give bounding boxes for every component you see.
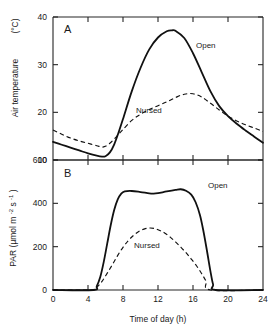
panel-b-ylabel-unit: (µmol m xyxy=(8,217,18,248)
panel-b-ytick-group xyxy=(53,160,263,290)
panel-a-open-label: Open xyxy=(196,41,216,50)
figure-svg: 10203040 A Air temperature (°C) Open Nur… xyxy=(0,0,280,334)
xtick-label-0: 0 xyxy=(51,294,56,304)
ytick-label-0: 0 xyxy=(42,285,47,295)
panel-b-ylabel-mid: s xyxy=(8,202,18,206)
x-axis-title: Time of day (h) xyxy=(130,314,187,324)
panel-a-ylabel-unit: (°C) xyxy=(10,18,20,33)
panel-b-open-curve xyxy=(53,189,263,290)
panel-b-ylabel-close: ) xyxy=(8,189,18,192)
panel-b-xtick-labels: 04812162024 xyxy=(51,294,268,304)
panel-b-ytick-labels: 0200400600 xyxy=(33,155,47,295)
figure-container: 10203040 A Air temperature (°C) Open Nur… xyxy=(0,0,280,334)
panel-b-open-label: Open xyxy=(208,181,228,190)
panel-a-ytick-labels: 10203040 xyxy=(38,12,48,165)
ytick-label-20: 20 xyxy=(38,107,48,117)
panel-a-letter: A xyxy=(64,23,72,35)
panel-a: 10203040 A Air temperature (°C) Open Nur… xyxy=(10,12,263,165)
panel-b-letter: B xyxy=(64,167,71,179)
panel-b-ylabel-main: PAR xyxy=(8,250,18,267)
xtick-label-12: 12 xyxy=(153,294,163,304)
panel-a-ylabel-text: Air temperature xyxy=(10,58,20,117)
ytick-label-400: 400 xyxy=(33,198,47,208)
panel-a-ylabel-main: Air temperature xyxy=(10,58,20,117)
panel-b: 0200400600 04812162024 B PAR (µmol m -2 … xyxy=(5,155,268,324)
panel-b-nursed-label: Nursed xyxy=(134,241,160,250)
ytick-label-40: 40 xyxy=(38,12,48,22)
panel-b-ylabel-text: PAR (µmol m -2 s -1 ) xyxy=(5,189,18,267)
xtick-label-4: 4 xyxy=(86,294,91,304)
panel-b-ylabel-exp1: -2 xyxy=(8,208,14,214)
panel-b-ylabel-exp2: -1 xyxy=(8,194,14,200)
ytick-label-600: 600 xyxy=(33,155,47,165)
panel-a-nursed-label: Nursed xyxy=(136,106,162,115)
panel-b-axis-frame xyxy=(53,160,263,290)
panel-b-nursed-curve xyxy=(53,228,263,291)
xtick-label-20: 20 xyxy=(223,294,233,304)
xtick-label-8: 8 xyxy=(121,294,126,304)
panel-b-axes xyxy=(53,160,263,290)
xtick-label-16: 16 xyxy=(188,294,198,304)
panel-b-ylabel: PAR (µmol m -2 s -1 ) xyxy=(5,189,18,267)
xtick-label-24: 24 xyxy=(258,294,268,304)
panel-b-xtick-group xyxy=(88,160,228,290)
ytick-label-30: 30 xyxy=(38,60,48,70)
panel-a-open-curve xyxy=(53,30,263,157)
panel-a-ylabel: Air temperature (°C) xyxy=(10,18,20,117)
ytick-label-200: 200 xyxy=(33,242,47,252)
